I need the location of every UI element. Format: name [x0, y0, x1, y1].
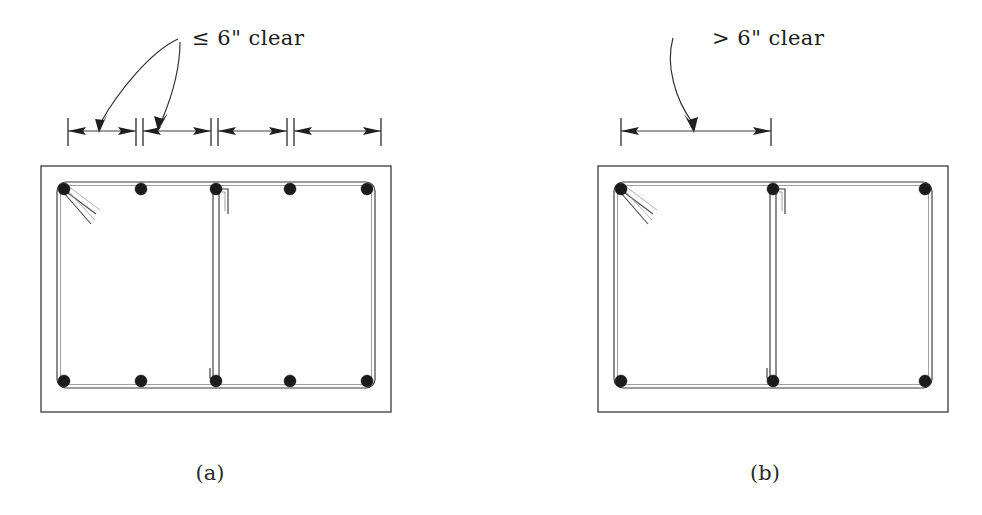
rebar-bar — [615, 183, 627, 195]
rebar-bar — [919, 183, 931, 195]
leader-curve-a-right — [162, 42, 180, 120]
dimension-span-a-3 — [218, 127, 287, 135]
dimension-span-a-2 — [143, 127, 211, 135]
rebar-bar — [284, 183, 296, 195]
panel-a: ≤ 6" clear — [41, 26, 391, 485]
leader-arrowhead-b — [684, 114, 698, 133]
dimension-lines-a — [68, 127, 381, 135]
rebar-bar — [210, 375, 222, 387]
leader-arrows-a — [95, 39, 180, 133]
rebar-bar — [767, 183, 779, 195]
dimension-span-b-1 — [621, 127, 771, 135]
figure-canvas: ≤ 6" clear — [0, 0, 982, 515]
leader-arrowhead-a-left — [95, 113, 108, 133]
dimension-span-a-4 — [294, 127, 381, 135]
rebar-bar — [210, 183, 222, 195]
annotation-label-a: ≤ 6" clear — [192, 26, 305, 50]
engineering-figure: ≤ 6" clear — [0, 0, 982, 515]
rebar-bar — [361, 183, 373, 195]
leader-arrows-b — [670, 38, 698, 133]
rebar-bar — [58, 375, 70, 387]
panel-b: > 6" clear — [598, 26, 948, 485]
dimension-lines-b — [621, 127, 771, 135]
leader-curve-b — [670, 38, 692, 122]
rebar-bar — [284, 375, 296, 387]
rebar-bar — [615, 375, 627, 387]
panel-caption-b: (b) — [750, 461, 780, 485]
dimension-span-a-1 — [68, 127, 136, 135]
annotation-label-b: > 6" clear — [712, 26, 825, 50]
rebar-bar — [361, 375, 373, 387]
panel-caption-a: (a) — [196, 461, 225, 485]
rebar-bar — [919, 375, 931, 387]
rebar-bar — [58, 183, 70, 195]
rebar-bar — [135, 183, 147, 195]
rebar-bar — [767, 375, 779, 387]
rebar-bar — [135, 375, 147, 387]
